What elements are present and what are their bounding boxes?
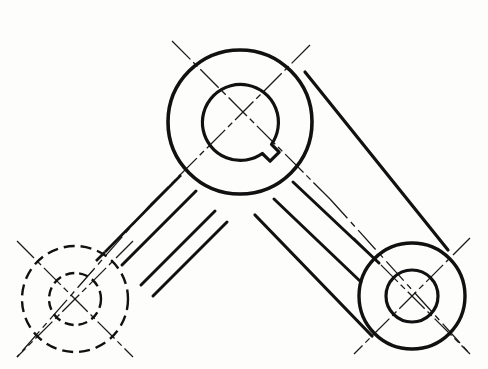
right-arm-rib-line-1 [293,182,379,263]
left-boss-centerline-b [17,241,133,357]
top-boss [168,50,312,194]
right-arm-outer-edge [305,72,448,250]
right-arm [255,72,448,336]
left-arm-outer-edge [105,175,181,252]
right-arm-axis-centerline [330,199,470,354]
center-lines-group [17,41,470,357]
left-arm-rib-line-1 [122,191,196,265]
left-arm [96,175,227,296]
top-boss-bore-with-keyway [202,84,279,161]
top-boss-outer-circle [168,50,312,194]
left-arm-rib-line-2 [141,211,215,285]
right-arm-rib-line-2 [274,199,361,282]
drawing-canvas [0,0,488,369]
left-arm-inner-edge [153,222,227,296]
technical-drawing-svg [0,0,488,369]
